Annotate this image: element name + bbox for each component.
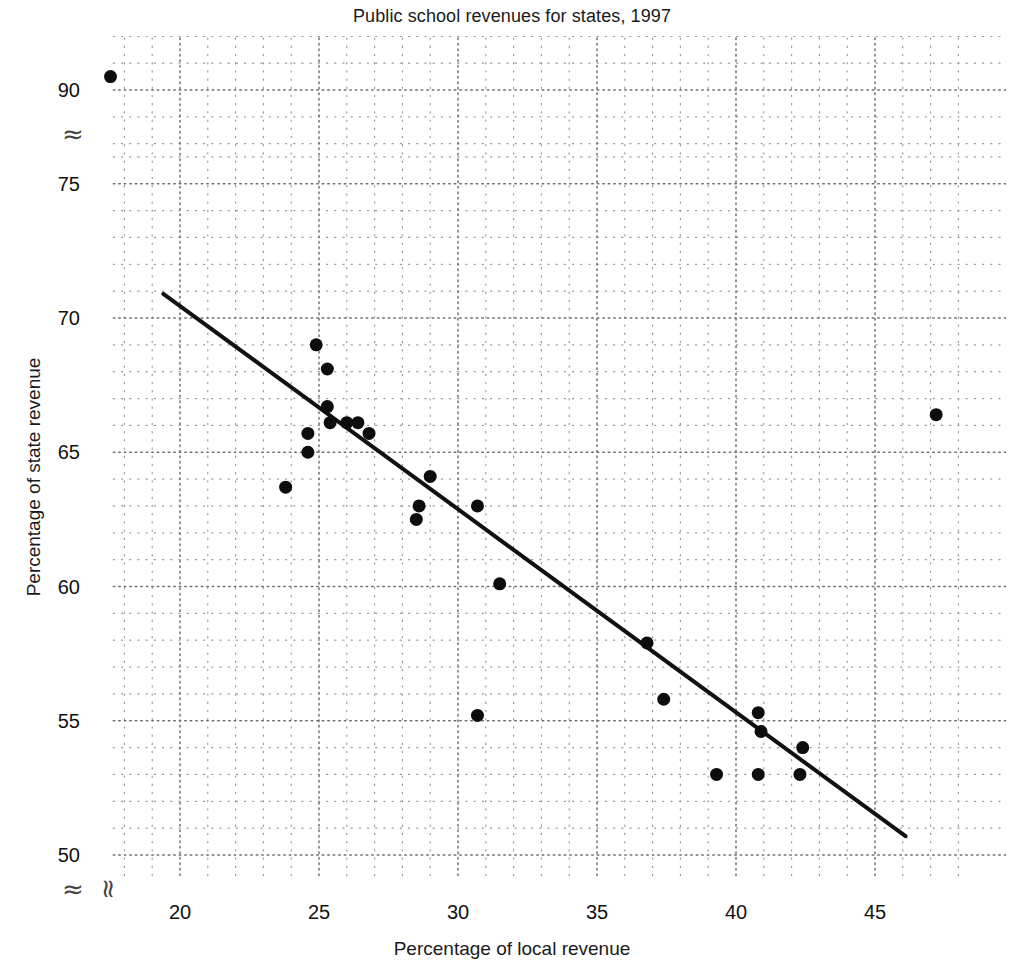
data-point — [493, 577, 506, 590]
x-tick-label: 35 — [567, 902, 627, 922]
data-point — [413, 499, 426, 512]
data-point — [279, 481, 292, 494]
data-point — [321, 363, 334, 376]
y-tick-label: 50 — [34, 845, 80, 865]
x-axis-tick-labels: 202530354045 — [0, 902, 1024, 936]
scatter-plot-figure: Public school revenues for states, 1997 … — [0, 0, 1024, 975]
data-point — [324, 416, 337, 429]
data-point — [363, 427, 376, 440]
data-point — [710, 768, 723, 781]
y-axis-title: Percentage of state revenue — [23, 227, 45, 727]
x-axis-break-icon: ≈ — [96, 878, 122, 900]
data-point — [301, 446, 314, 459]
y-axis-break-icon-bottom: ≈ — [62, 876, 84, 902]
x-tick-label: 20 — [150, 902, 210, 922]
trend-line — [163, 294, 905, 836]
data-point — [471, 709, 484, 722]
data-point — [471, 499, 484, 512]
y-tick-label: 90 — [34, 80, 80, 100]
data-point — [755, 725, 768, 738]
data-point — [752, 768, 765, 781]
minor-gridlines — [113, 36, 1006, 879]
data-point — [321, 400, 334, 413]
data-point — [351, 416, 364, 429]
x-tick-label: 25 — [289, 902, 349, 922]
data-point — [104, 70, 117, 83]
x-tick-label: 30 — [428, 902, 488, 922]
data-point — [310, 338, 323, 351]
data-point — [301, 427, 314, 440]
data-point — [424, 470, 437, 483]
y-tick-label: 75 — [34, 174, 80, 194]
plot-area — [88, 36, 1006, 891]
data-point — [410, 513, 423, 526]
data-point — [641, 636, 654, 649]
x-axis-title: Percentage of local revenue — [0, 938, 1024, 960]
data-point — [796, 741, 809, 754]
data-point — [752, 706, 765, 719]
x-tick-label: 45 — [845, 902, 905, 922]
y-axis-break-icon-top: ≈ — [62, 121, 84, 147]
data-point — [930, 408, 943, 421]
data-point — [657, 693, 670, 706]
x-tick-label: 40 — [706, 902, 766, 922]
plot-canvas — [88, 36, 1006, 891]
data-point — [340, 416, 353, 429]
data-point — [793, 768, 806, 781]
major-gridlines — [113, 38, 1006, 879]
page-title: Public school revenues for states, 1997 — [0, 6, 1024, 27]
